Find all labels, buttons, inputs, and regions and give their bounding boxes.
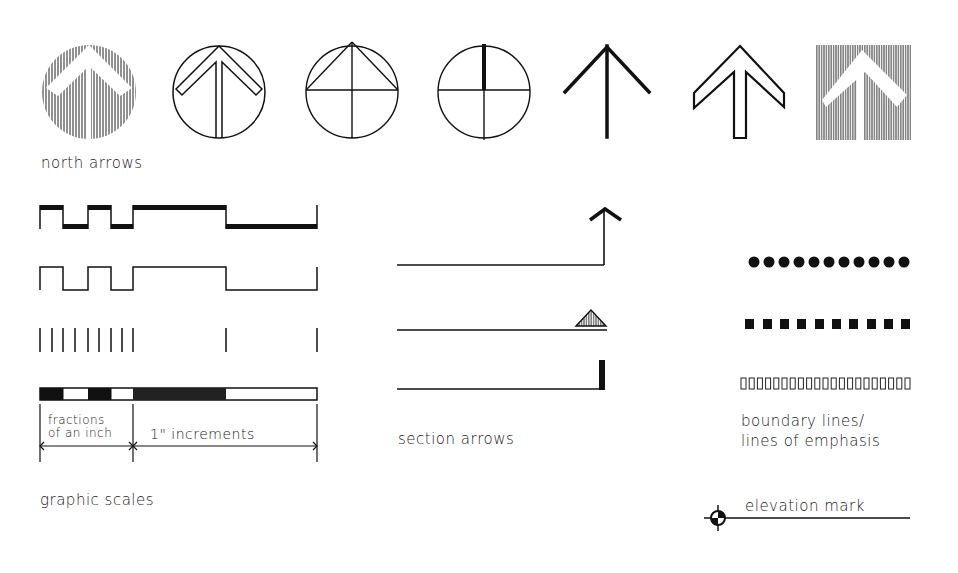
north-arrow-outline-circle-icon [173,46,265,138]
north-arrow-outline-icon [694,46,784,138]
graphic-scales-label: graphic scales [40,491,154,509]
boundary-lines-label-line1: boundary lines/ [741,412,865,430]
drafting-symbols-sheet [0,0,958,573]
section-arrow-chevron-icon [397,209,621,265]
graphic-scale-ticks [40,328,317,352]
section-arrow-bar-icon [397,360,605,390]
north-arrow-triangle-circle-icon [306,42,398,138]
section-arrow-triangle-icon [397,310,607,330]
graphic-scale-filled-bar [40,388,317,400]
increments-label: 1" increments [150,426,255,442]
north-arrow-simple-icon [565,46,649,137]
north-arrow-hatched-circle-icon [42,45,136,142]
graphic-scale-filled-alternating [40,205,317,229]
north-arrow-quadrant-bar-icon [438,44,530,140]
fractions-label-line2: of an inch [48,427,112,440]
section-arrows-label: section arrows [398,430,514,448]
elevation-mark-label: elevation mark [745,497,865,515]
boundary-line-dots [749,257,910,268]
boundary-lines-label-line2: lines of emphasis [741,432,880,450]
north-arrows-label: north arrows [41,154,142,172]
boundary-line-open-rects [741,378,910,389]
boundary-line-squares [745,319,910,329]
graphic-scale-outline-alternating [40,267,317,290]
north-arrow-hatched-square-icon [816,45,911,140]
